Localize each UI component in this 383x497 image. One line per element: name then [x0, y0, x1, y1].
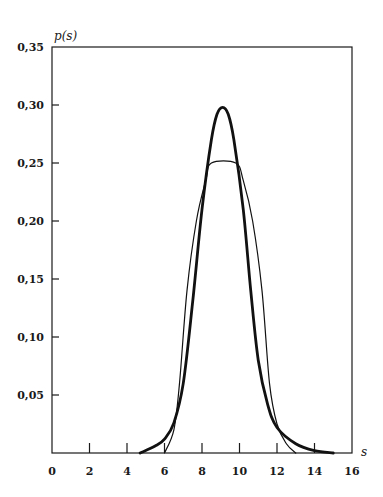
x-tick-label: 16: [344, 465, 360, 478]
plot-border: [52, 47, 352, 453]
thin-curve: [165, 161, 296, 453]
y-tick-label: 0,25: [17, 157, 44, 170]
plot-frame: [52, 47, 352, 453]
x-tick-label: 12: [269, 465, 284, 478]
x-tick-label: 6: [161, 465, 169, 478]
thick-curve: [140, 107, 333, 453]
x-tick-label: 4: [123, 465, 131, 478]
data-series: [140, 107, 333, 453]
y-axis-label: p(s): [54, 29, 78, 43]
chart-figure: 0,050,100,150,200,250,300,35 02468101214…: [0, 0, 383, 497]
x-tick-label: 0: [48, 465, 56, 478]
x-axis-label: s: [361, 445, 367, 459]
x-tick-label: 2: [86, 465, 94, 478]
x-tick-label: 8: [198, 465, 206, 478]
x-tick-label: 10: [232, 465, 248, 478]
y-tick-label: 0,35: [17, 41, 44, 54]
y-tick-label: 0,10: [17, 331, 44, 344]
x-axis-ticks: 0246810121416: [48, 443, 360, 478]
y-tick-label: 0,30: [17, 99, 44, 112]
y-tick-label: 0,15: [17, 273, 44, 286]
y-tick-label: 0,20: [17, 215, 44, 228]
x-tick-label: 14: [307, 465, 323, 478]
y-tick-label: 0,05: [17, 389, 44, 402]
y-axis-ticks: 0,050,100,150,200,250,300,35: [17, 41, 59, 402]
